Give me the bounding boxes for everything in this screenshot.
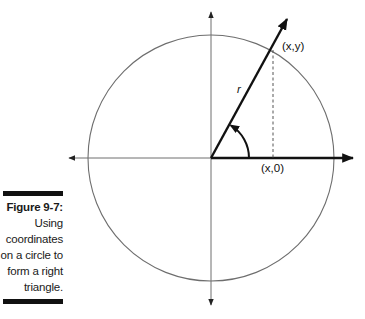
caption-line: coordinates [0,231,63,247]
figure-number: Figure 9-7: [0,199,63,215]
caption-bar-top [3,191,63,196]
point-x0-label: (x,0) [261,162,284,174]
radius-label: r [237,83,241,95]
radius-line [211,19,287,158]
caption-line: on a circle to [0,247,63,263]
angle-arc [231,126,249,159]
caption-bar-bottom [3,299,63,304]
point-xy-label: (x,y) [282,40,304,52]
caption-line: Using [0,215,63,231]
figure-caption: Figure 9-7: Using coordinates on a circl… [0,191,63,304]
caption-line: form a right [0,263,63,279]
caption-line: triangle. [0,279,63,295]
